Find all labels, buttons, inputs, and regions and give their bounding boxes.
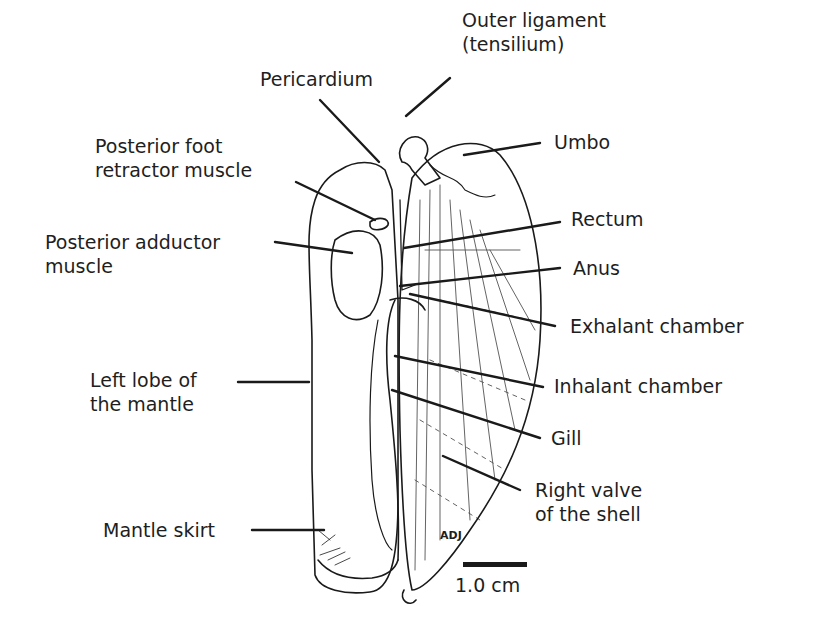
label-mantle-skirt: Mantle skirt [103, 518, 215, 542]
label-line: muscle [45, 254, 220, 278]
label-line: Posterior foot [95, 134, 252, 158]
label-line: (tensilium) [462, 32, 606, 56]
label-rectum: Rectum [571, 207, 643, 231]
scale-bar [463, 562, 527, 567]
label-line: of the shell [535, 502, 642, 526]
label-left-lobe-mantle: Left lobe of the mantle [90, 368, 197, 416]
left-mantle-lobe [309, 163, 398, 593]
label-line: Left lobe of [90, 368, 197, 392]
label-line: Posterior adductor [45, 230, 220, 254]
label-line: Right valve [535, 478, 642, 502]
leader-rectum [404, 222, 560, 248]
posterior-adductor-shape [331, 231, 382, 320]
label-umbo: Umbo [554, 130, 610, 154]
leader-anus [400, 268, 560, 286]
label-right-valve: Right valve of the shell [535, 478, 642, 526]
leader-pericardium [320, 100, 379, 162]
label-line: retractor muscle [95, 158, 252, 182]
label-line: the mantle [90, 392, 197, 416]
right-valve-outline [399, 143, 541, 590]
outer-ligament-shape [400, 137, 440, 185]
label-line: Outer ligament [462, 8, 606, 32]
leader-outer-ligament [406, 78, 450, 116]
artist-signature: ADJ [440, 530, 462, 542]
label-gill: Gill [551, 426, 582, 450]
leader-lines [238, 78, 560, 530]
leader-umbo [464, 143, 540, 155]
label-anus: Anus [573, 256, 620, 280]
scale-bar-label: 1.0 cm [455, 573, 520, 597]
leader-foot-retractor [296, 182, 375, 220]
label-posterior-foot-retractor: Posterior foot retractor muscle [95, 134, 252, 182]
label-exhalant-chamber: Exhalant chamber [570, 314, 744, 338]
leader-posterior-adductor [275, 242, 352, 253]
label-pericardium: Pericardium [260, 67, 373, 91]
label-outer-ligament: Outer ligament (tensilium) [462, 8, 606, 56]
leader-gill [392, 390, 540, 438]
label-inhalant-chamber: Inhalant chamber [554, 374, 722, 398]
anatomy-diagram: Outer ligament (tensilium) Pericardium U… [0, 0, 815, 638]
leader-exhalant [410, 294, 555, 326]
label-posterior-adductor: Posterior adductor muscle [45, 230, 220, 278]
leader-right-valve [443, 456, 520, 490]
